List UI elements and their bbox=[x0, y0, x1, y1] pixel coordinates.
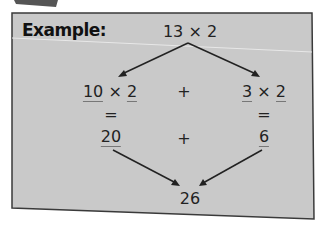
left-split-expression: 10 × 2 bbox=[83, 83, 137, 101]
left-tens: 10 bbox=[83, 82, 103, 102]
left-times: × bbox=[108, 82, 121, 101]
result-value: 26 bbox=[180, 190, 200, 208]
right-product: 6 bbox=[259, 128, 269, 146]
equals-left: = bbox=[104, 106, 117, 124]
top-expression: 13 × 2 bbox=[163, 23, 217, 41]
example-title: Example: bbox=[22, 20, 106, 40]
right-multiplier: 2 bbox=[276, 82, 286, 102]
right-split-expression: 3 × 2 bbox=[242, 83, 286, 101]
plus-sign-row2: + bbox=[177, 130, 190, 148]
right-times: × bbox=[257, 82, 270, 101]
plus-sign-row1: + bbox=[177, 83, 190, 101]
equals-right: = bbox=[257, 106, 270, 124]
left-multiplier: 2 bbox=[127, 82, 137, 102]
left-product: 20 bbox=[101, 128, 121, 146]
right-ones: 3 bbox=[242, 82, 252, 102]
pointer-arrow-shape bbox=[14, 0, 58, 7]
